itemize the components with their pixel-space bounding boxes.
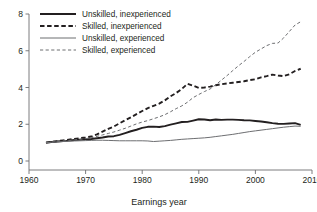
series-line-skilled-inexperienced bbox=[46, 69, 301, 143]
x-axis-label: Earnings year bbox=[131, 197, 187, 207]
chart-legend: Unskilled, inexperiencedSkilled, inexper… bbox=[40, 10, 171, 55]
y-tick-label: 2 bbox=[18, 119, 23, 129]
y-tick-label: 0 bbox=[18, 156, 23, 166]
x-tick-label: 1990 bbox=[189, 175, 208, 185]
legend-label: Unskilled, experienced bbox=[82, 34, 165, 43]
x-tick-label: 1970 bbox=[76, 175, 95, 185]
x-tick-group: 196019701980199020002010 bbox=[20, 170, 317, 185]
chart-figure: 02468 196019701980199020002010 Unskilled… bbox=[0, 0, 317, 212]
x-tick-label: 2000 bbox=[246, 175, 265, 185]
legend-label: Skilled, experienced bbox=[82, 46, 156, 55]
y-axis: 02468 bbox=[18, 9, 29, 170]
series-line-unskilled-inexperienced bbox=[46, 119, 301, 142]
y-tick-label: 8 bbox=[18, 9, 23, 19]
series-line-unskilled-experienced bbox=[46, 126, 301, 143]
x-tick-label: 2010 bbox=[303, 175, 317, 185]
y-tick-label: 4 bbox=[18, 83, 23, 93]
y-tick-label: 6 bbox=[18, 46, 23, 56]
legend-label: Unskilled, inexperienced bbox=[82, 10, 171, 19]
y-tick-group: 02468 bbox=[18, 9, 29, 166]
x-tick-label: 1960 bbox=[20, 175, 39, 185]
x-axis: 196019701980199020002010 bbox=[20, 170, 317, 185]
line-chart-svg: 02468 196019701980199020002010 Unskilled… bbox=[0, 0, 317, 212]
legend-label: Skilled, inexperienced bbox=[82, 22, 162, 31]
x-tick-label: 1980 bbox=[133, 175, 152, 185]
